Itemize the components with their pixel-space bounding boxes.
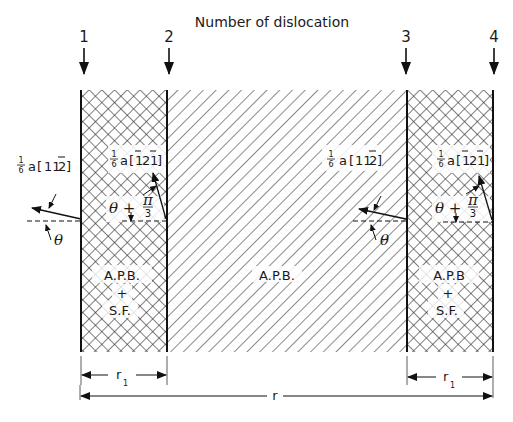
svg-text:π: π — [467, 191, 479, 209]
svg-text:6: 6 — [18, 166, 23, 175]
region-middle-label: A.P.B. — [259, 268, 295, 283]
svg-text:a: a — [339, 153, 347, 168]
svg-text:[: [ — [129, 153, 134, 168]
arrowhead-icon — [164, 62, 174, 75]
svg-text:6: 6 — [111, 160, 116, 169]
svg-text:a: a — [120, 153, 128, 168]
svg-text:]: ] — [157, 153, 162, 168]
svg-text:A.P.B: A.P.B — [433, 268, 465, 283]
dislocation-number-3: 3 — [401, 28, 411, 46]
svg-text:r: r — [443, 369, 449, 384]
svg-text:3: 3 — [470, 208, 476, 219]
dislocation-marker-1: 1 — [79, 28, 89, 75]
svg-text:r: r — [272, 388, 278, 403]
svg-text:1: 1 — [438, 150, 443, 159]
angle-arrow-icon — [49, 194, 56, 208]
arrowhead-icon — [489, 62, 499, 75]
angle-theta-1: θ — [27, 194, 81, 249]
svg-text:1: 1 — [18, 156, 23, 165]
dimension-r-total: r — [80, 385, 492, 403]
svg-text:θ +: θ + — [109, 199, 135, 217]
svg-text:[: [ — [456, 153, 461, 168]
diagram-title: Number of dislocation — [195, 14, 349, 30]
arrowhead-icon — [79, 62, 89, 75]
svg-text:S.F.: S.F. — [109, 303, 131, 318]
svg-text:+: + — [443, 286, 454, 301]
svg-text:a: a — [447, 153, 455, 168]
svg-text:r: r — [116, 367, 122, 382]
dislocation-marker-4: 4 — [489, 28, 499, 75]
dimension-r1-right: r 1 — [407, 356, 493, 398]
dislocation-number-2: 2 — [164, 28, 174, 46]
arrowhead-icon — [401, 62, 411, 75]
svg-text:[: [ — [37, 159, 42, 174]
dislocation-marker-3: 3 — [401, 28, 411, 75]
svg-text:1: 1 — [328, 150, 333, 159]
svg-text:a: a — [28, 159, 36, 174]
svg-text:1: 1 — [123, 379, 128, 388]
dislocation-marker-2: 2 — [164, 28, 174, 75]
dislocation-number-1: 1 — [79, 28, 89, 46]
svg-text:1: 1 — [111, 150, 116, 159]
dislocation-diagram: Number of dislocation 1 2 3 4 1 — [0, 0, 513, 422]
dimension-r1-left: r 1 — [81, 356, 167, 388]
svg-text:6: 6 — [328, 160, 333, 169]
svg-text:6: 6 — [438, 160, 443, 169]
svg-text:3: 3 — [145, 208, 151, 219]
angle-arrow-icon — [46, 225, 51, 240]
dislocation-number-4: 4 — [489, 28, 499, 46]
burgers-vector-1-label: 1 6 a [ 11 2 ] — [17, 156, 71, 175]
svg-text:+: + — [117, 286, 128, 301]
svg-text:θ: θ — [380, 231, 389, 249]
burgers-vector-arrow — [32, 208, 81, 219]
svg-text:θ +: θ + — [435, 199, 461, 217]
svg-text:[: [ — [349, 153, 354, 168]
svg-text:]: ] — [484, 153, 489, 168]
svg-text:θ: θ — [54, 231, 63, 249]
svg-text:]: ] — [66, 159, 71, 174]
svg-text:π: π — [142, 191, 154, 209]
svg-text:]: ] — [377, 153, 382, 168]
svg-text:A.P.B.: A.P.B. — [104, 268, 140, 283]
svg-text:1: 1 — [450, 381, 455, 390]
svg-text:S.F.: S.F. — [436, 303, 458, 318]
